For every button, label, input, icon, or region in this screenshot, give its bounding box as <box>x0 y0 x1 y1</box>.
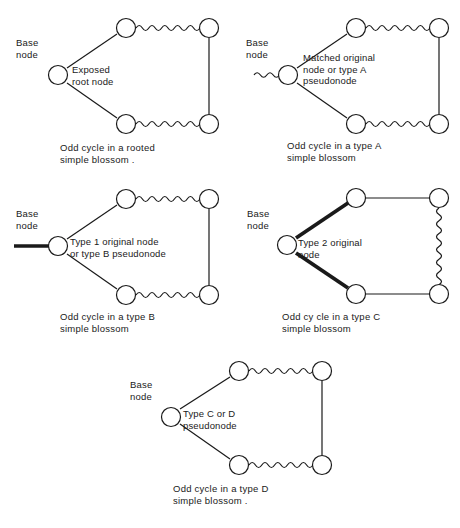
figure-type-b-simple-blossom: Base node Type 1 original node or type B… <box>0 180 230 360</box>
edge-base-to-bottom <box>67 83 117 118</box>
figure-caption: Odd cy cle in a type C simple blossom <box>282 311 380 334</box>
edge-top-wavy <box>366 26 436 31</box>
figure-rooted-simple-blossom: Base node Exposed root node Odd cycle in… <box>0 0 230 180</box>
figure-caption: Odd cycle in a type B simple blossom <box>60 311 155 334</box>
node-top-left <box>347 189 366 208</box>
node-top-right <box>430 189 449 208</box>
node-bottom-left <box>117 115 136 134</box>
base-node-label: Base node <box>16 37 38 60</box>
base-node-label: Base node <box>130 379 152 402</box>
root-node-label: Exposed root node <box>72 64 114 87</box>
base-node-label: Base node <box>247 208 269 231</box>
figure-caption: Odd cycle in a type A simple blossom <box>287 140 382 163</box>
figure-type-c-simple-blossom: Base node Type 2 original node Odd cy cl… <box>230 180 460 360</box>
matched-node-label: Matched original node or type A pseudono… <box>303 52 375 87</box>
edge-bottom-wavy <box>249 463 319 468</box>
node-bottom-left <box>347 115 366 134</box>
node-top-right <box>200 190 219 209</box>
edge-base-to-bottom <box>67 254 117 289</box>
node-base <box>49 66 68 85</box>
figure-type-d-simple-blossom: Base node Type C or D pseudonode Odd cyc… <box>115 355 345 528</box>
node-base <box>279 66 298 85</box>
node-top-left <box>117 19 136 38</box>
node-base <box>49 237 68 256</box>
node-top-right <box>430 19 449 38</box>
edge-top-wavy <box>136 26 206 31</box>
edge-right-wavy <box>437 208 442 285</box>
node-base <box>278 236 297 255</box>
node-bottom-right <box>430 285 449 304</box>
edge-bottom-wavy <box>136 293 206 298</box>
edge-base-to-bottom <box>297 83 347 118</box>
node-bottom-left <box>117 286 136 305</box>
node-top-left <box>117 190 136 209</box>
base-node-label: Base node <box>16 208 38 231</box>
edge-bottom-wavy <box>136 122 206 127</box>
edge-bottom-wavy <box>366 122 436 127</box>
node-top-right <box>313 362 332 381</box>
edge-base-to-top <box>67 205 117 239</box>
figure-type-a-simple-blossom: Base node Matched original node or type … <box>230 0 460 180</box>
edge-base-to-top-thick <box>296 203 348 238</box>
edge-base-to-top <box>180 377 230 409</box>
type-2-node-label: Type 2 original node <box>298 237 362 260</box>
node-bottom-left <box>347 285 366 304</box>
edge-top-wavy <box>136 197 206 202</box>
edge-top-wavy <box>249 369 319 374</box>
node-bottom-right <box>200 115 219 134</box>
figure-caption: Odd cycle in a type D simple blossom . <box>173 483 269 506</box>
node-top-left <box>230 362 249 381</box>
node-bottom-right <box>200 286 219 305</box>
type-b-node-label: Type 1 original node or type B pseudonod… <box>70 236 166 259</box>
stem-wavy <box>254 73 280 78</box>
node-bottom-right <box>430 115 449 134</box>
node-top-left <box>347 19 366 38</box>
node-bottom-right <box>313 456 332 475</box>
type-cd-node-label: Type C or D pseudonode <box>183 408 237 431</box>
node-bottom-left <box>230 456 249 475</box>
node-top-right <box>200 19 219 38</box>
node-base <box>162 408 181 427</box>
figure-caption: Odd cycle in a rooted simple blossom . <box>60 142 155 165</box>
base-node-label: Base node <box>246 37 268 60</box>
edge-base-to-top <box>67 34 117 68</box>
